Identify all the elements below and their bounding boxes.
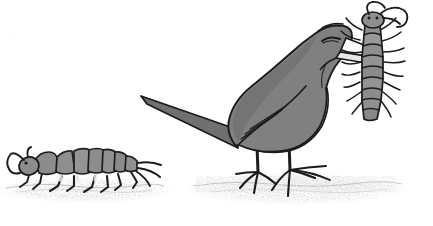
centipede-body [362,22,383,120]
ground-patch-right [185,170,410,204]
ground-insect-body [35,149,137,175]
bird-and-centipede-drawing [0,0,433,226]
illustration-canvas: Bird eating a centipede [0,0,433,226]
